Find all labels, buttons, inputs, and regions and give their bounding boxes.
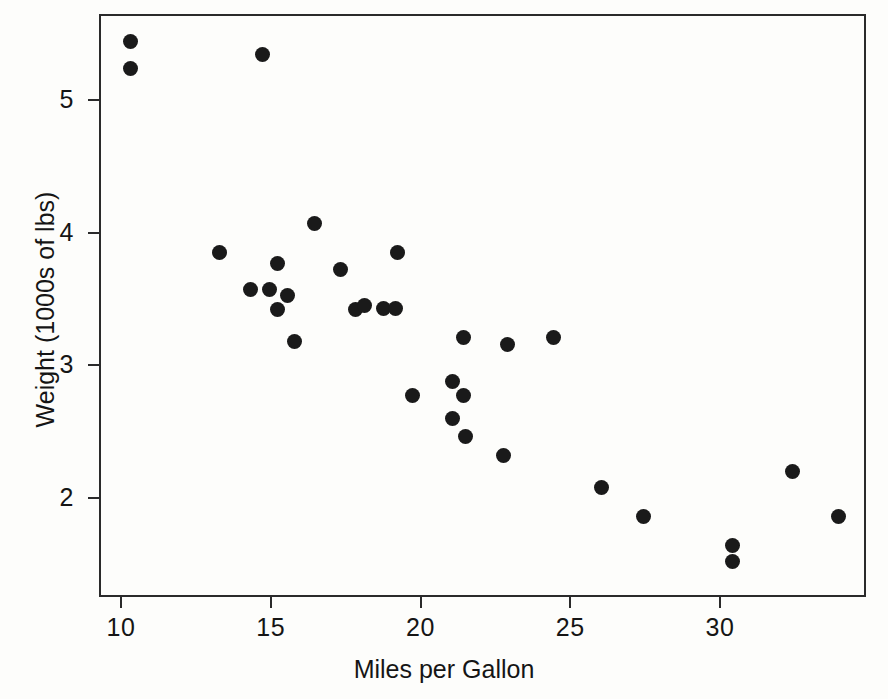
plot-area-frame: [99, 14, 866, 597]
x-axis-tick: [719, 597, 721, 608]
scatter-plot-figure: 1015202530 2345 Miles per Gallon Weight …: [0, 0, 888, 699]
y-axis-tick: [88, 99, 99, 101]
x-axis-tick-label: 20: [386, 615, 456, 640]
x-axis-tick: [420, 597, 422, 608]
x-axis-label: Miles per Gallon: [0, 655, 888, 684]
x-axis-tick-label: 25: [535, 615, 605, 640]
x-axis-tick-label: 10: [86, 615, 156, 640]
x-axis-tick: [120, 597, 122, 608]
x-axis-tick-label: 30: [685, 615, 755, 640]
y-axis-tick: [88, 232, 99, 234]
x-axis-tick: [270, 597, 272, 608]
x-axis-tick: [569, 597, 571, 608]
y-axis-label: Weight (1000s of lbs): [31, 60, 60, 560]
y-axis-tick: [88, 497, 99, 499]
x-axis-tick-label: 15: [236, 615, 306, 640]
y-axis-tick: [88, 364, 99, 366]
